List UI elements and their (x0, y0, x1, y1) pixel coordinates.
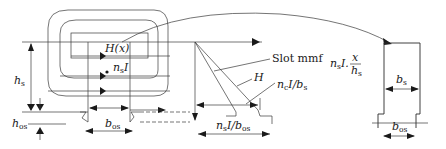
field-arrow (100, 72, 106, 80)
mmf-line (195, 42, 236, 112)
nsI-bos-label: nsI/bos (216, 119, 251, 133)
field-arrow (100, 87, 106, 95)
field-label: H(x) (104, 42, 129, 55)
ncI-bs-label: ncI/bs (277, 78, 307, 92)
formula-label: nsI. (330, 57, 349, 71)
h-label: H (253, 71, 264, 84)
curved-arrow (122, 13, 390, 43)
formula-numerator: x (352, 51, 359, 64)
current-dot (105, 70, 108, 73)
slot-mmf-label: Slot mmf (272, 52, 323, 65)
current-label: nsI (113, 61, 129, 75)
slot-mmf-diagram: H(x) nsI hs hos bos Slot mmf H ncI/bs (0, 0, 446, 149)
bos2-label: bos (392, 120, 408, 134)
bs-label: bs (396, 73, 407, 87)
hs-label: hs (14, 74, 25, 88)
h-leader (237, 79, 252, 86)
bos-label: bos (105, 117, 121, 131)
hos-label: hos (12, 117, 28, 131)
formula-denominator: hs (351, 64, 362, 78)
ncI-leader (246, 83, 275, 104)
h-line (195, 42, 258, 110)
slot-mmf-leader (214, 59, 270, 71)
